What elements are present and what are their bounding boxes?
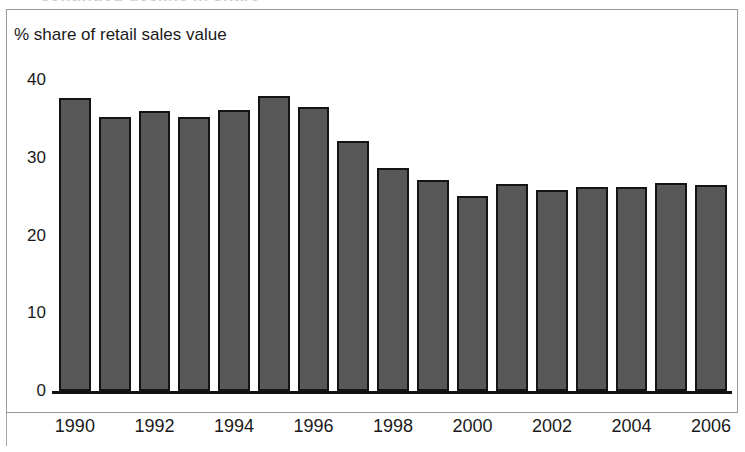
y-axis-caption: % share of retail sales value: [14, 25, 227, 45]
clipped-heading-text: continued decline in share: [40, 0, 260, 6]
x-tick-label: 2006: [681, 417, 741, 435]
x-tick-label: 2002: [522, 417, 582, 435]
bottom-strip: [0, 446, 745, 452]
chart-screenshot: continued decline in share % share of re…: [0, 0, 745, 452]
y-tick-label: 20: [2, 227, 46, 244]
chart-frame: [6, 9, 738, 413]
x-tick-label: 2004: [602, 417, 662, 435]
y-tick-label: 10: [2, 304, 46, 321]
x-tick-label: 1998: [363, 417, 423, 435]
clipped-heading-region: continued decline in share: [0, 0, 745, 9]
x-tick-label: 1992: [124, 417, 184, 435]
x-tick-label: 1990: [45, 417, 105, 435]
y-tick-label: 40: [2, 71, 46, 88]
y-tick-label: 30: [2, 149, 46, 166]
x-tick-label: 1996: [283, 417, 343, 435]
y-tick-label: 0: [2, 382, 46, 399]
x-tick-label: 2000: [443, 417, 503, 435]
x-tick-label: 1994: [204, 417, 264, 435]
